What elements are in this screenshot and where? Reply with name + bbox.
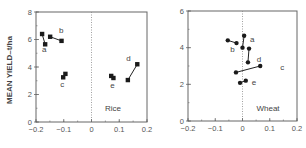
data-point (234, 41, 238, 45)
x-tick-label: 0.1 (114, 125, 124, 134)
series-label: e (252, 78, 257, 87)
y-tick-label: 0 (28, 118, 32, 127)
series-label: d (257, 55, 261, 64)
data-point (226, 38, 230, 42)
x-tick-label: 0.2 (142, 125, 152, 134)
data-point (126, 78, 130, 82)
panel-rice: −0.2−0.100.10.202468abcdeRice (28, 8, 152, 135)
y-tick-label: 2 (180, 80, 184, 89)
y-tick-label: 4 (180, 43, 184, 52)
y-tick-label: 8 (28, 8, 32, 17)
data-point (48, 35, 52, 39)
series-label: d (126, 54, 130, 63)
series-b: b (226, 38, 239, 54)
y-tick-label: 4 (28, 63, 32, 72)
data-point (246, 60, 250, 64)
series-a: a (40, 32, 47, 55)
data-point (247, 46, 251, 50)
x-tick-label: 0.2 (292, 124, 302, 133)
x-tick-label: −0.1 (56, 125, 71, 134)
data-point (59, 39, 63, 43)
series-label: c (60, 80, 64, 89)
data-point (240, 45, 244, 49)
series-label: b (230, 45, 235, 54)
y-tick-label: 6 (28, 35, 32, 44)
y-tick-label: 0 (180, 117, 184, 126)
series-label: b (59, 26, 64, 35)
data-point (135, 62, 139, 66)
data-point (234, 70, 238, 74)
series-label: c (280, 63, 284, 72)
series-e: e (238, 78, 257, 87)
data-point (63, 72, 67, 76)
series-label: a (42, 45, 47, 54)
series-e: e (109, 74, 116, 90)
panel-title: Rice (105, 104, 122, 113)
data-point (111, 76, 115, 80)
x-tick-label: 0.1 (265, 124, 275, 133)
panel-title: Wheat (256, 104, 280, 113)
series-d: d (246, 46, 262, 64)
figure: −0.2−0.100.10.202468abcdeRice−0.2−0.100.… (0, 0, 306, 148)
series-b: b (48, 26, 64, 43)
data-point (40, 32, 44, 36)
data-point (242, 34, 246, 38)
y-tick-label: 6 (180, 7, 184, 16)
series-c: c (60, 72, 67, 90)
x-tick-label: −0.1 (208, 124, 223, 133)
series-label: e (110, 81, 115, 90)
x-tick-label: 0 (89, 125, 93, 134)
x-tick-label: 0 (240, 124, 244, 133)
data-point (244, 78, 248, 82)
panel-wheat: −0.2−0.100.10.20246abcdeWheat (180, 7, 302, 134)
y-tick-label: 2 (28, 90, 32, 99)
series-c: c (234, 63, 284, 75)
series-label: a (250, 35, 255, 44)
series-d: d (126, 54, 140, 83)
data-point (258, 64, 262, 68)
data-point (238, 81, 242, 85)
